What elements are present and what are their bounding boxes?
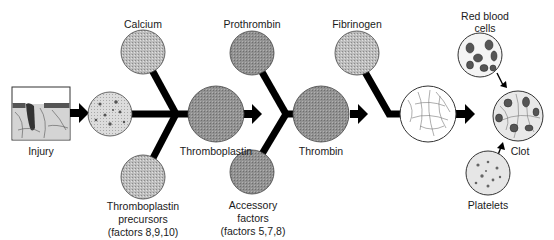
thromboplastin-label: Thromboplastin bbox=[180, 145, 252, 158]
fibrin-circle bbox=[400, 86, 456, 142]
clot-label: Clot bbox=[511, 145, 530, 158]
red-blood-cells-circle bbox=[458, 33, 502, 77]
fibrinogen-label: Fibrinogen bbox=[332, 18, 382, 31]
accessory-label-line3: (factors 5,7,8) bbox=[221, 225, 286, 238]
calcium-label: Calcium bbox=[124, 18, 162, 31]
arrow-thrombin-to-fibrin bbox=[350, 104, 368, 124]
thrombin-label: Thrombin bbox=[299, 145, 343, 158]
connector-fibrinogen bbox=[365, 72, 402, 114]
fibrinogen-circle bbox=[335, 31, 379, 75]
prothrombin-label: Prothrombin bbox=[223, 18, 280, 31]
prothrombin-circle bbox=[230, 31, 274, 75]
precursors-label-line2: precursors bbox=[118, 213, 168, 226]
calcium-circle bbox=[121, 30, 165, 74]
platelets-label: Platelets bbox=[468, 199, 508, 212]
accessory-label-line2: factors bbox=[237, 212, 269, 225]
tissue-circle bbox=[88, 92, 132, 136]
thrombin-circle bbox=[293, 86, 349, 142]
accessory-label-line1: Accessory bbox=[229, 199, 277, 212]
connector-thrombin-inputs bbox=[262, 72, 297, 154]
clot-circle bbox=[493, 91, 543, 141]
injury-illustration bbox=[12, 87, 70, 140]
injury-label: Injury bbox=[28, 145, 54, 158]
precursors-label-line1: Thromboplastin bbox=[107, 200, 179, 213]
thromboplastin-circle bbox=[188, 86, 244, 142]
rbc-label-line2: cells bbox=[474, 22, 495, 35]
precursors-circle bbox=[121, 155, 165, 199]
arrow-fibrin-to-clot bbox=[456, 104, 475, 124]
arrow-injury-to-tissue bbox=[70, 103, 89, 123]
precursors-label-line3: (factors 8,9,10) bbox=[108, 226, 179, 239]
platelets-circle bbox=[466, 151, 510, 195]
arrow-rbc-to-clot bbox=[497, 73, 507, 88]
arrow-thromboplastin-to-thrombin bbox=[243, 104, 262, 124]
clotting-diagram: Injury Calcium Thromboplastin precursors… bbox=[0, 0, 554, 240]
